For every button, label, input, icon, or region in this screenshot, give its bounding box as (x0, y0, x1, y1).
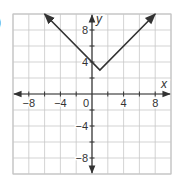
y-tick-label: 8 (82, 24, 88, 36)
coordinate-plane: −8−404884−4−8xy (0, 0, 177, 185)
x-tick-label: −4 (54, 97, 67, 109)
x-tick-label: 4 (121, 97, 127, 109)
y-tick-label: −4 (75, 120, 88, 132)
x-axis-label: x (160, 77, 168, 91)
y-tick-label: −8 (75, 152, 88, 164)
axes (14, 15, 170, 173)
x-tick-label: −8 (23, 97, 36, 109)
y-axis-label: y (95, 12, 103, 26)
x-tick-label: 8 (152, 97, 158, 109)
origin-label: 0 (83, 97, 89, 109)
